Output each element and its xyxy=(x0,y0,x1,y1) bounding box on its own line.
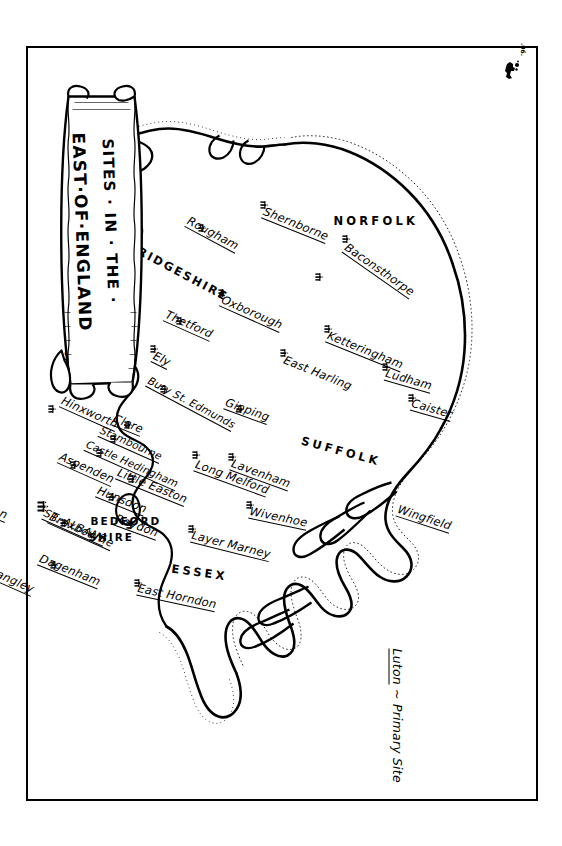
legend: Luton ~ Primary Site xyxy=(389,648,404,782)
map-content-rotated: NORFOLK SUFFOLK ESSEX CAMBRIDGESHIRE BED… xyxy=(28,48,536,799)
legend-separator: ~ xyxy=(389,684,404,703)
map-frame-border: .06. xyxy=(26,46,538,801)
title-scroll-banner: SITES · IN · THE · EAST·OF·ENGLAND xyxy=(44,82,156,400)
map-page: .06. xyxy=(0,0,562,846)
legend-meaning: Primary Site xyxy=(389,703,404,782)
map-canvas: NORFOLK SUFFOLK ESSEX CAMBRIDGESHIRE BED… xyxy=(28,48,536,799)
site-marker-hinxworth[interactable] xyxy=(47,404,56,413)
site-label-luton: Luton xyxy=(0,497,9,522)
site-marker-wingfield[interactable] xyxy=(314,272,323,281)
county-label-norfolk: NORFOLK xyxy=(333,213,418,227)
legend-sample-name: Luton xyxy=(388,648,404,684)
